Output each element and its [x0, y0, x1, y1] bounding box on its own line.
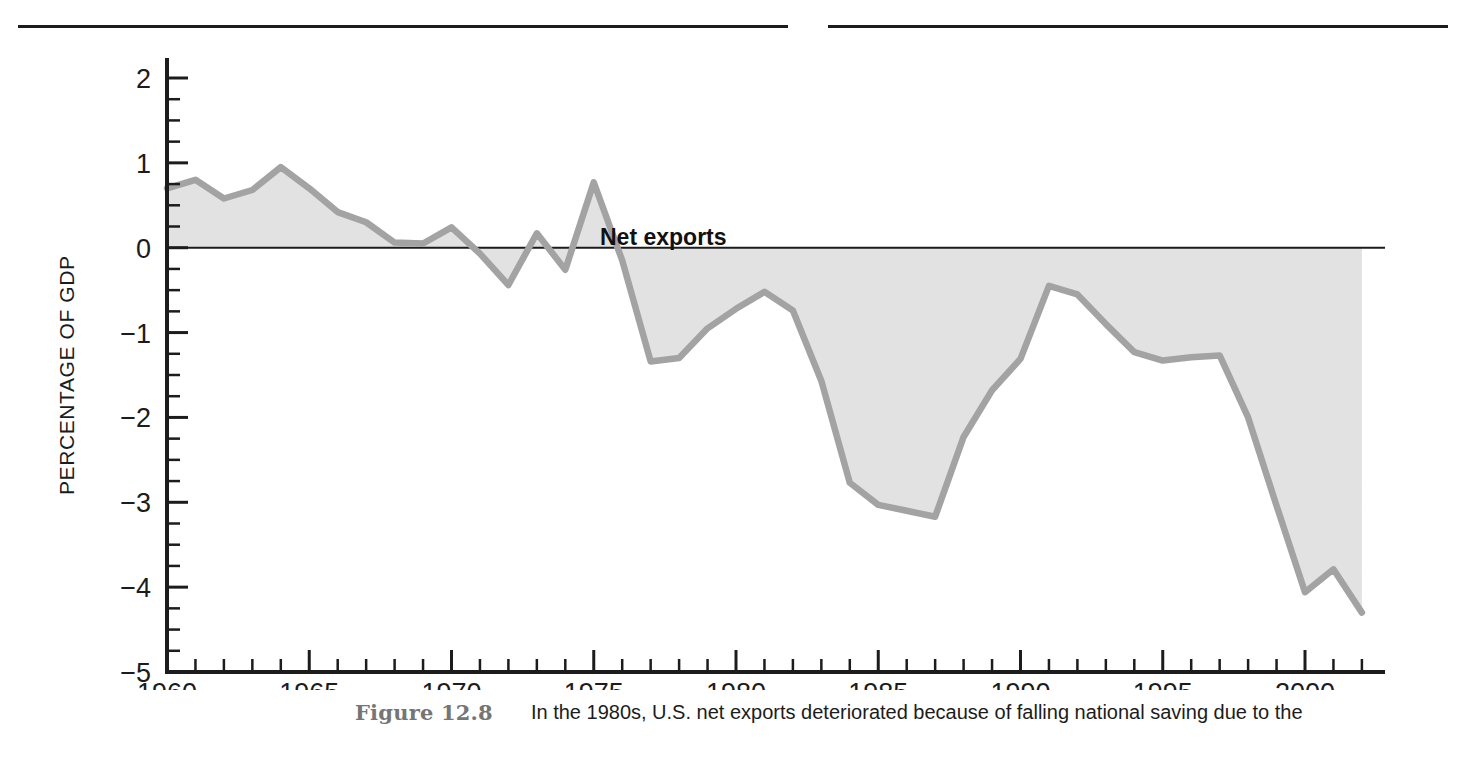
y-axis-tick-label: 2: [136, 64, 151, 94]
y-axis-tick-label: −3: [120, 488, 151, 518]
x-axis-tick-label: 1985: [848, 678, 908, 690]
page-top-rule: [18, 25, 1448, 28]
y-axis-tick-label: 1: [136, 149, 151, 179]
chart-figure: 210−1−2−3−4−5196019651970197519801985199…: [0, 40, 1466, 690]
net-exports-area-chart: 210−1−2−3−4−5196019651970197519801985199…: [0, 40, 1466, 690]
y-axis-tick-label: −2: [120, 403, 151, 433]
figure-caption-text: In the 1980s, U.S. net exports deteriora…: [531, 700, 1303, 725]
y-axis-title: PERCENTAGE OF GDP: [55, 255, 78, 495]
x-axis-tick-label: 1970: [421, 678, 481, 690]
y-axis-tick-label: 0: [136, 234, 151, 264]
x-axis-tick-label: 1960: [137, 678, 197, 690]
figure-caption: Figure 12.8 In the 1980s, U.S. net expor…: [0, 700, 1466, 750]
y-axis-tick-label: −1: [120, 319, 151, 349]
x-axis-tick-label: 1995: [1133, 678, 1193, 690]
x-axis-tick-label: 2000: [1275, 678, 1335, 690]
x-axis-tick-label: 1965: [279, 678, 339, 690]
x-axis-tick-label: 1980: [706, 678, 766, 690]
figure-page: 210−1−2−3−4−5196019651970197519801985199…: [0, 0, 1466, 760]
x-axis-tick-label: 1975: [564, 678, 624, 690]
y-axis-tick-label: −4: [120, 573, 151, 603]
figure-number-label: Figure 12.8: [355, 700, 493, 725]
series-annotation-label: Net exports: [600, 224, 727, 250]
x-axis-tick-label: 1990: [990, 678, 1050, 690]
net-exports-area-fill: [167, 167, 1362, 612]
